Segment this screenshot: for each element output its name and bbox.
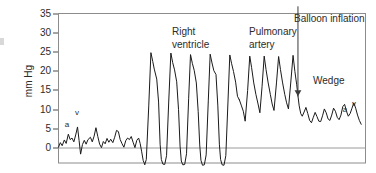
y-axis-title: mm Hg <box>23 65 34 97</box>
annotations: Right ventricle Pulmonary artery Balloon… <box>65 13 365 129</box>
y-axis: 35 30 25 20 15 10 5 0 mm Hg <box>23 8 58 153</box>
pressure-waveform-chart: 35 30 25 20 15 10 5 0 mm Hg Right vent <box>0 0 376 173</box>
annotation-pulmonary-artery-line2: artery <box>249 39 275 50</box>
y-tick-label-15: 15 <box>40 84 52 95</box>
trace-right-atrium <box>59 127 145 165</box>
y-tick-label-5: 5 <box>45 123 51 134</box>
annotation-right-ventricle-line2: ventricle <box>172 39 210 50</box>
annotation-pcwp-a-wave: a <box>343 105 348 114</box>
crop-artifact-mark <box>0 38 4 45</box>
trace-pulmonary-artery <box>239 55 298 121</box>
annotation-right-ventricle-line1: Right <box>172 26 196 37</box>
y-tick-label-0: 0 <box>45 142 51 153</box>
annotation-ra-v-wave: v <box>75 108 79 117</box>
annotation-wedge: Wedge <box>313 75 345 86</box>
annotation-ra-a-wave: a <box>65 120 70 129</box>
y-tick-label-35: 35 <box>40 8 52 19</box>
figure-root: 35 30 25 20 15 10 5 0 mm Hg Right vent <box>0 0 376 173</box>
balloon-inflation-arrow-head <box>295 90 302 96</box>
plot-frame <box>59 14 366 164</box>
y-tick-label-20: 20 <box>40 65 52 76</box>
y-tick-label-10: 10 <box>40 104 52 115</box>
y-tick-label-25: 25 <box>40 46 52 57</box>
annotation-balloon-inflation: Balloon inflation <box>294 13 365 24</box>
annotation-pcwp-v-wave: v <box>352 99 356 108</box>
y-tick-label-30: 30 <box>40 27 52 38</box>
annotation-pulmonary-artery-line1: Pulmonary <box>249 26 297 37</box>
